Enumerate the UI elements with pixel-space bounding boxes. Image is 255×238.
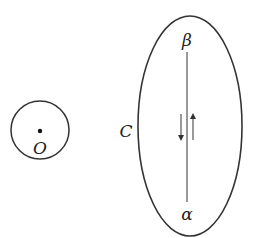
point-o-label: O xyxy=(33,138,47,158)
branch-cut-group: β α xyxy=(181,30,193,224)
contour-diagram: O C β α xyxy=(0,0,255,238)
point-o-dot xyxy=(38,129,42,133)
alpha-label: α xyxy=(181,204,193,224)
contour-c-label: C xyxy=(119,121,132,141)
beta-label: β xyxy=(181,30,192,50)
small-circle-group: O xyxy=(11,101,69,159)
